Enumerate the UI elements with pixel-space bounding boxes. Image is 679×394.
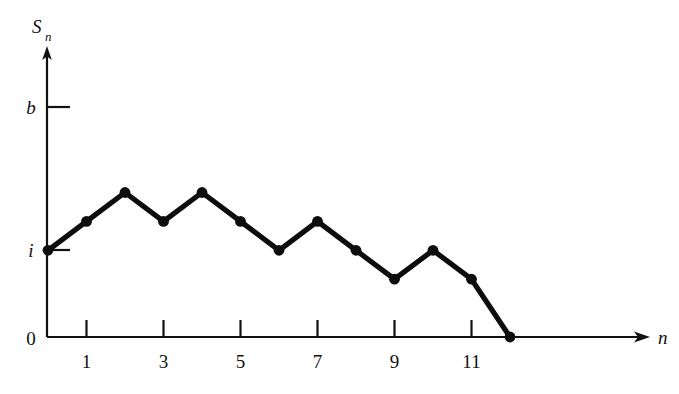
- walk-data-point: [389, 274, 400, 285]
- x-tick-label-1: 1: [82, 351, 92, 372]
- walk-data-point: [466, 274, 477, 285]
- y-tick-label-b: b: [26, 97, 36, 118]
- walk-data-point: [235, 216, 246, 227]
- y-tick-label-zero: 0: [26, 328, 36, 349]
- x-tick-label-9: 9: [390, 351, 400, 372]
- walk-data-point: [274, 245, 285, 256]
- walk-data-point: [197, 187, 208, 198]
- y-axis-label-subscript: n: [45, 29, 52, 44]
- y-axis-label-base: S: [32, 16, 42, 37]
- x-tick-label-11: 11: [462, 351, 480, 372]
- x-tick-label-7: 7: [313, 351, 323, 372]
- chart-background: [0, 0, 679, 394]
- walk-data-point: [312, 216, 323, 227]
- chart-figure: b i 0 1 3 5 7 9 11 S n n: [0, 0, 679, 394]
- x-tick-label-5: 5: [236, 351, 246, 372]
- random-walk-chart-svg: b i 0 1 3 5 7 9 11 S n n: [0, 0, 679, 394]
- walk-data-point: [120, 187, 131, 198]
- walk-data-point: [81, 216, 92, 227]
- x-axis-label: n: [658, 327, 668, 348]
- y-tick-label-i: i: [28, 240, 33, 261]
- walk-data-point: [505, 332, 516, 343]
- walk-data-point: [351, 245, 362, 256]
- x-tick-label-3: 3: [159, 351, 169, 372]
- walk-data-point: [428, 245, 439, 256]
- walk-data-point: [43, 245, 54, 256]
- walk-data-point: [158, 216, 169, 227]
